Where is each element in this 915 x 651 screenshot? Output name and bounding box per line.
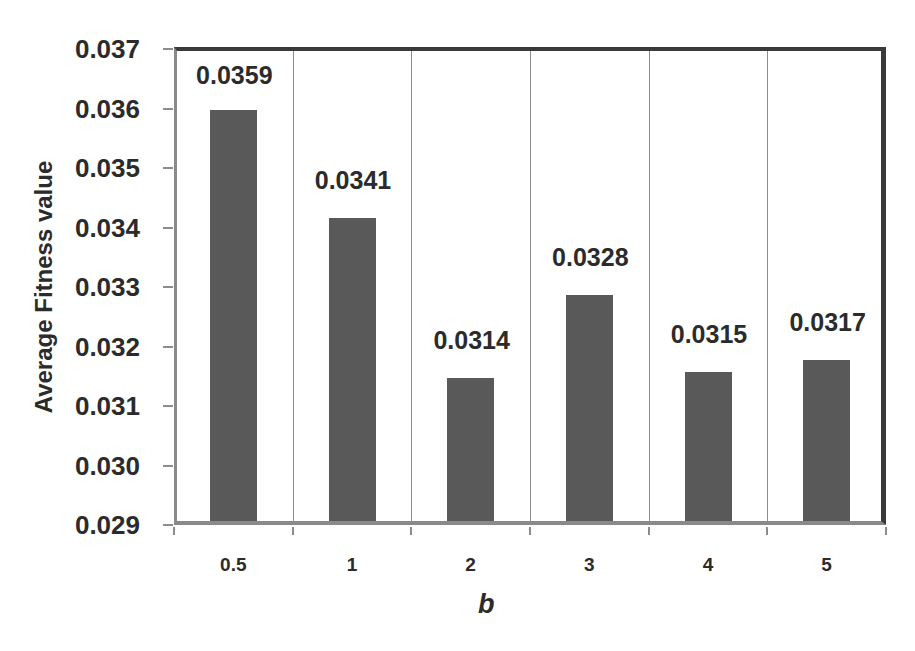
vertical-gridline [293, 51, 294, 521]
vertical-gridline [411, 51, 412, 521]
vertical-gridline [649, 51, 650, 521]
bar-chart: Average Fitness value 0.0370.0360.0350.0… [0, 0, 915, 651]
y-axis-label: Average Fitness value [32, 161, 56, 414]
data-label: 0.0328 [552, 245, 628, 270]
y-tick-label: 0.029 [75, 512, 140, 538]
data-label: 0.0314 [433, 328, 509, 353]
y-tick-mark [163, 227, 173, 229]
x-tick-label: 2 [465, 555, 476, 574]
bar-1 [329, 218, 376, 521]
x-tick-label: 1 [347, 555, 358, 574]
data-label: 0.0317 [789, 310, 865, 335]
y-tick-label: 0.034 [75, 215, 140, 241]
y-tick-mark [163, 405, 173, 407]
y-tick-mark [163, 465, 173, 467]
vertical-gridline [530, 51, 531, 521]
x-tick-mark [529, 527, 531, 535]
y-tick-label: 0.033 [75, 274, 140, 300]
bar-0.5 [210, 110, 257, 521]
vertical-gridline [767, 51, 768, 521]
x-tick-mark [173, 527, 175, 535]
y-tick-label: 0.035 [75, 155, 140, 181]
y-tick-label: 0.037 [75, 36, 140, 62]
y-tick-label: 0.030 [75, 453, 140, 479]
bar-3 [566, 295, 613, 521]
bar-2 [447, 378, 494, 521]
x-tick-mark [885, 527, 887, 535]
data-label: 0.0341 [315, 168, 391, 193]
y-tick-label: 0.036 [75, 96, 140, 122]
bar-4 [685, 372, 732, 521]
y-tick-mark [163, 524, 173, 526]
x-tick-mark [292, 527, 294, 535]
data-label: 0.0359 [196, 63, 272, 88]
x-tick-mark [766, 527, 768, 535]
x-tick-label: 4 [703, 555, 714, 574]
bar-5 [803, 360, 850, 521]
y-tick-mark [163, 346, 173, 348]
y-tick-mark [163, 286, 173, 288]
x-tick-label: 0.5 [220, 555, 246, 574]
data-label: 0.0315 [671, 322, 747, 347]
x-tick-label: 5 [821, 555, 832, 574]
x-tick-mark [410, 527, 412, 535]
x-tick-mark [648, 527, 650, 535]
y-tick-label: 0.032 [75, 334, 140, 360]
y-tick-mark [163, 48, 173, 50]
y-tick-label: 0.031 [75, 393, 140, 419]
x-axis-label: b [478, 591, 495, 618]
y-tick-mark [163, 108, 173, 110]
y-tick-mark [163, 167, 173, 169]
plot-area [174, 47, 886, 525]
x-tick-label: 3 [584, 555, 595, 574]
